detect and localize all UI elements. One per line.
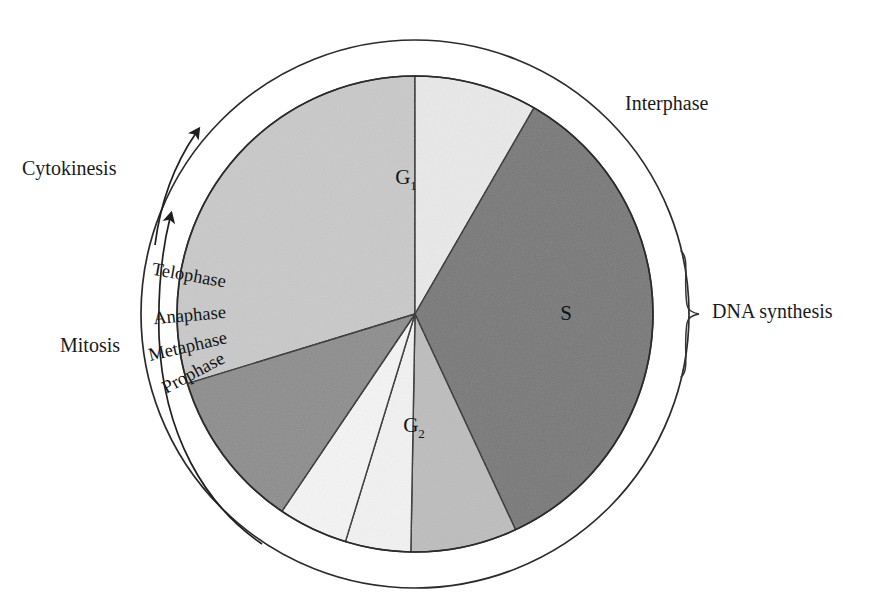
- phase-wedge-group: [177, 76, 653, 552]
- cell-cycle-figure: G1SG2ProphaseMetaphaseAnaphaseTelophase …: [0, 0, 872, 598]
- dna-synthesis-label: DNA synthesis: [712, 300, 833, 323]
- mitosis-label: Mitosis: [60, 334, 120, 356]
- cytokinesis-label: Cytokinesis: [22, 157, 117, 180]
- cytokinesis-arrow: [155, 133, 196, 245]
- phase-label-s: S: [560, 301, 572, 325]
- cell-cycle-svg: G1SG2ProphaseMetaphaseAnaphaseTelophase …: [0, 0, 872, 598]
- dna-synthesis-brace: [681, 251, 699, 377]
- interphase-label: Interphase: [625, 92, 708, 115]
